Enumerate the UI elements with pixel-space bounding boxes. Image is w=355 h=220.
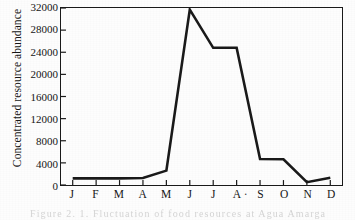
- y-tick-label: 12000: [31, 113, 59, 125]
- x-tick-label: S: [257, 188, 263, 200]
- x-tick-label: O: [280, 188, 288, 200]
- x-tick-label: M: [161, 188, 171, 200]
- x-tick-label: A: [233, 188, 241, 200]
- y-tick-label: 8000: [36, 135, 58, 147]
- plot-area: [60, 7, 343, 186]
- x-tick-label: N: [303, 188, 311, 200]
- x-tick-label: M: [114, 188, 124, 200]
- y-axis-tick-labels: 040008000120001600020000240002800032000: [18, 0, 58, 186]
- y-axis-tick-marks: [61, 8, 66, 185]
- x-axis-tick-labels: JFMAMJJASOND·: [60, 188, 343, 206]
- x-tick-label: J: [211, 188, 215, 200]
- x-tick-label: A: [138, 188, 146, 200]
- x-tick-label: J: [70, 188, 74, 200]
- chart-figure: Concentrated resource abundance 04000800…: [0, 0, 355, 220]
- data-line-svg: [61, 8, 342, 185]
- series-line: [73, 10, 331, 183]
- y-tick-label: 0: [53, 180, 59, 192]
- x-tick-label: J: [187, 188, 191, 200]
- x-axis-tick-marks: [73, 180, 331, 185]
- x-axis-scan-artifact-dot: ·: [244, 188, 248, 200]
- y-tick-label: 28000: [31, 23, 59, 35]
- y-tick-label: 24000: [31, 46, 59, 58]
- y-tick-label: 16000: [31, 91, 59, 103]
- y-tick-label: 4000: [36, 158, 58, 170]
- x-tick-label: D: [327, 188, 335, 200]
- y-tick-label: 20000: [31, 68, 59, 80]
- figure-caption: Figure 2. 1. Fluctuation of food resourc…: [30, 208, 350, 219]
- y-tick-label: 32000: [31, 1, 59, 13]
- x-tick-label: F: [92, 188, 98, 200]
